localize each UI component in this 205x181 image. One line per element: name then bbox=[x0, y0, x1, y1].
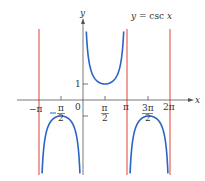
3half-pi-den: 2 bbox=[145, 113, 151, 123]
tick-label-2pi: 2π bbox=[163, 102, 175, 112]
tick-label-3half-pi: 3π 2 bbox=[142, 103, 154, 123]
curve-branch-2 bbox=[86, 31, 123, 84]
x-axis-arrow-icon bbox=[188, 98, 194, 102]
chart-title: y = csc x bbox=[130, 11, 172, 21]
csc-graph: y x y = csc x 1 −π π 2 0 π 2 π 3π 2 2π bbox=[0, 0, 205, 181]
tick-label-zero: 0 bbox=[75, 102, 81, 112]
asymptotes bbox=[39, 29, 170, 175]
y-axis-label: y bbox=[79, 8, 86, 18]
tick-label-one: 1 bbox=[75, 79, 81, 89]
tick-label-pi: π bbox=[123, 102, 129, 112]
curve-branch-3 bbox=[130, 116, 168, 173]
tick-label-half-pi: π 2 bbox=[101, 103, 109, 123]
neg-half-pi-den: 2 bbox=[58, 113, 64, 123]
curve-branch-1 bbox=[42, 116, 80, 173]
tick-label-neg-pi: −π bbox=[29, 104, 43, 114]
3half-pi-num: 3π bbox=[142, 103, 154, 113]
x-axis-label: x bbox=[195, 95, 200, 105]
half-pi-num: π bbox=[102, 103, 108, 113]
half-pi-den: 2 bbox=[102, 113, 108, 123]
neg-half-pi-num: π bbox=[58, 103, 64, 113]
y-axis-arrow-icon bbox=[81, 18, 85, 24]
chart-canvas: y x y = csc x 1 −π π 2 0 π 2 π 3π 2 2π bbox=[0, 0, 205, 181]
